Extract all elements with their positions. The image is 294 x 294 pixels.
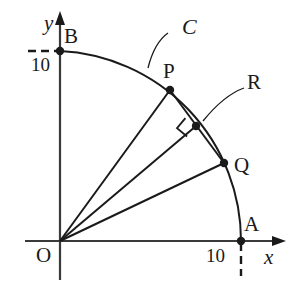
point-dot-q bbox=[220, 159, 228, 167]
y-axis-label: y bbox=[44, 13, 53, 34]
point-dot-a bbox=[237, 237, 245, 245]
point-label-q: Q bbox=[234, 155, 249, 176]
arc-curve-c bbox=[60, 51, 241, 241]
curve-label-c: C bbox=[182, 16, 197, 38]
x-axis-arrowhead bbox=[272, 236, 286, 246]
segments-group bbox=[60, 90, 224, 241]
x-axis-label: x bbox=[264, 247, 273, 268]
segment-op bbox=[60, 90, 170, 241]
y-tick-label-10: 10 bbox=[31, 55, 50, 74]
point-label-b: B bbox=[64, 26, 78, 47]
point-label-r: R bbox=[247, 72, 261, 93]
geometry-figure: y x B 10 P C R Q A 10 O bbox=[0, 0, 294, 294]
leader-line-r bbox=[203, 88, 244, 121]
segment-oq bbox=[60, 163, 224, 241]
point-dot-p bbox=[166, 86, 174, 94]
segment-or bbox=[60, 126, 196, 241]
point-dot-b bbox=[56, 47, 64, 55]
point-label-p: P bbox=[163, 61, 175, 82]
y-axis-arrowhead bbox=[55, 11, 65, 25]
point-dot-r bbox=[192, 122, 200, 130]
point-label-o: O bbox=[36, 245, 51, 266]
x-tick-label-10: 10 bbox=[206, 246, 225, 265]
point-label-a: A bbox=[244, 214, 259, 235]
arc-c-group bbox=[60, 51, 241, 241]
